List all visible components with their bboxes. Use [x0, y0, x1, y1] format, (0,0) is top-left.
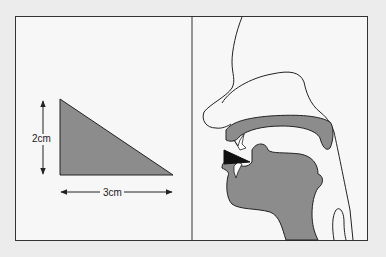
figure: 2cm 3cm	[0, 0, 386, 257]
width-label: 3cm	[103, 187, 122, 198]
height-label: 2cm	[32, 133, 51, 144]
